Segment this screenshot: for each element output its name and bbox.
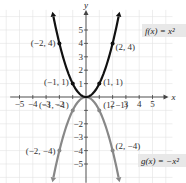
point-annotation: (−2, 4) [31,38,56,48]
point-annotation: (2, −4) [116,141,141,151]
point-annotation: (1, 1) [103,77,123,87]
f-legend-label: f(x) = x² [145,26,175,36]
y-tick-label: 1 [79,79,84,89]
point-annotation: (−1, 1) [44,77,69,87]
point-annotation: (−2, −4) [26,146,56,156]
y-tick-label: −3 [73,132,83,142]
data-point [57,149,61,153]
g-legend-label: g(x) = −x² [141,156,179,166]
y-axis-arrow-icon [84,10,89,15]
y-tick-label: −4 [73,146,83,156]
y-tick-label: 5 [79,25,84,35]
point-annotation: (2, 4) [116,42,136,52]
y-axis-label: y [83,0,88,10]
x-axis-label: x [170,92,175,102]
x-tick-label: −5 [15,99,25,109]
point-annotation: (−1, −1) [39,100,69,110]
data-point [71,82,75,86]
data-point [71,108,75,112]
x-tick-label: 4 [137,99,142,109]
labels: (−2, 4)(2, 4)(−1, 1)(1, 1)(−1, −1)(1, −1… [26,24,186,167]
y-tick-label: −2 [73,119,83,129]
y-tick-label: 4 [79,38,84,48]
point-annotation: (1, −1) [103,100,128,110]
y-tick-label: −5 [73,159,83,169]
y-tick-label: 2 [79,65,84,75]
data-point [97,82,101,86]
data-point [111,41,115,45]
y-tick-label: 3 [79,52,84,62]
data-point [57,41,61,45]
parabola-chart: xy−5−4−3−2234554321−2−3−4−5 (−2, 4)(2, 4… [0,0,186,183]
data-point [97,108,101,112]
x-tick-label: 5 [150,99,155,109]
data-point [111,149,115,153]
x-tick-label: −4 [28,99,38,109]
